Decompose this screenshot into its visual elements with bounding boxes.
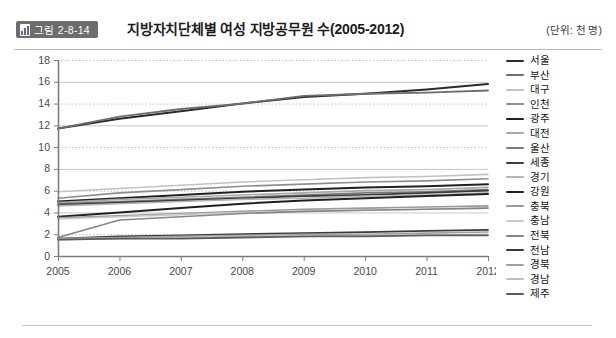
legend-swatch-icon (506, 220, 524, 222)
legend-swatch-icon (506, 235, 524, 237)
legend-item-서울[interactable]: 서울 (506, 54, 550, 67)
svg-text:4: 4 (44, 206, 50, 218)
legend-label: 경기 (530, 171, 550, 184)
figure-title: 지방자치단체별 여성 지방공무원 수(2005-2012) (127, 18, 404, 38)
figure-header: 그림 2-8-14 지방자치단체별 여성 지방공무원 수(2005-2012) … (0, 8, 616, 42)
legend-label: 세종 (530, 156, 550, 169)
legend-swatch-icon (506, 293, 524, 295)
chart-legend: 서울부산대구인천광주대전울산세종경기강원충북충남전북전남경북경남제주 (506, 54, 602, 302)
legend-item-세종[interactable]: 세종 (506, 156, 550, 169)
legend-label: 충북 (530, 200, 550, 213)
svg-text:2008: 2008 (231, 265, 255, 277)
svg-text:2: 2 (44, 228, 50, 240)
legend-label: 대구 (530, 83, 550, 96)
legend-label: 부산 (530, 69, 550, 82)
legend-swatch-icon (506, 132, 524, 134)
legend-swatch-icon (506, 176, 524, 178)
legend-swatch-icon (506, 205, 524, 207)
legend-swatch-icon (506, 89, 524, 91)
unit-note: (단위: 천 명) (546, 22, 602, 37)
bar-chart-icon (20, 24, 30, 36)
legend-item-광주[interactable]: 광주 (506, 112, 550, 125)
line-chart-svg: 0246810121416182005200620072008200920102… (14, 50, 496, 300)
figure-number-badge: 그림 2-8-14 (16, 21, 98, 38)
legend-item-경기[interactable]: 경기 (506, 171, 550, 184)
legend-swatch-icon (506, 147, 524, 149)
legend-item-인천[interactable]: 인천 (506, 98, 550, 111)
figure-container: 그림 2-8-14 지방자치단체별 여성 지방공무원 수(2005-2012) … (0, 0, 616, 338)
svg-text:0: 0 (44, 250, 50, 262)
legend-swatch-icon (506, 264, 524, 266)
svg-text:2005: 2005 (46, 265, 70, 277)
legend-item-전북[interactable]: 전북 (506, 229, 550, 242)
legend-label: 경남 (530, 273, 550, 286)
svg-text:2009: 2009 (292, 265, 316, 277)
svg-text:8: 8 (44, 162, 50, 174)
svg-text:16: 16 (38, 75, 50, 87)
legend-swatch-icon (506, 162, 524, 164)
legend-label: 전북 (530, 229, 550, 242)
legend-item-부산[interactable]: 부산 (506, 69, 550, 82)
figure-number-label: 그림 2-8-14 (34, 22, 90, 37)
legend-label: 제주 (530, 287, 550, 300)
legend-swatch-icon (506, 74, 524, 76)
legend-label: 강원 (530, 185, 550, 198)
svg-text:12: 12 (38, 119, 50, 131)
svg-text:2012: 2012 (476, 265, 496, 277)
svg-text:10: 10 (38, 141, 50, 153)
chart-block: 0246810121416182005200620072008200920102… (14, 50, 602, 308)
legend-swatch-icon (506, 191, 524, 193)
legend-swatch-icon (506, 278, 524, 280)
legend-item-강원[interactable]: 강원 (506, 185, 550, 198)
legend-label: 전남 (530, 244, 550, 257)
svg-text:2007: 2007 (169, 265, 193, 277)
svg-text:2010: 2010 (353, 265, 377, 277)
legend-swatch-icon (506, 118, 524, 120)
footer-divider (22, 325, 592, 326)
legend-label: 경북 (530, 258, 550, 271)
legend-swatch-icon (506, 249, 524, 251)
svg-text:14: 14 (38, 97, 50, 109)
legend-swatch-icon (506, 103, 524, 105)
legend-label: 대전 (530, 127, 550, 140)
legend-item-울산[interactable]: 울산 (506, 142, 550, 155)
legend-label: 인천 (530, 98, 550, 111)
legend-label: 서울 (530, 54, 550, 67)
legend-item-충북[interactable]: 충북 (506, 200, 550, 213)
legend-item-경북[interactable]: 경북 (506, 258, 550, 271)
legend-label: 울산 (530, 142, 550, 155)
legend-item-충남[interactable]: 충남 (506, 214, 550, 227)
legend-item-제주[interactable]: 제주 (506, 287, 550, 300)
legend-item-전남[interactable]: 전남 (506, 244, 550, 257)
legend-item-대구[interactable]: 대구 (506, 83, 550, 96)
svg-text:2011: 2011 (415, 265, 438, 277)
legend-label: 광주 (530, 112, 550, 125)
svg-text:6: 6 (44, 184, 50, 196)
legend-label: 충남 (530, 214, 550, 227)
svg-text:2006: 2006 (108, 265, 132, 277)
legend-item-대전[interactable]: 대전 (506, 127, 550, 140)
legend-swatch-icon (506, 60, 524, 62)
svg-text:18: 18 (38, 54, 50, 66)
legend-item-경남[interactable]: 경남 (506, 273, 550, 286)
plot-area: 0246810121416182005200620072008200920102… (14, 50, 496, 300)
